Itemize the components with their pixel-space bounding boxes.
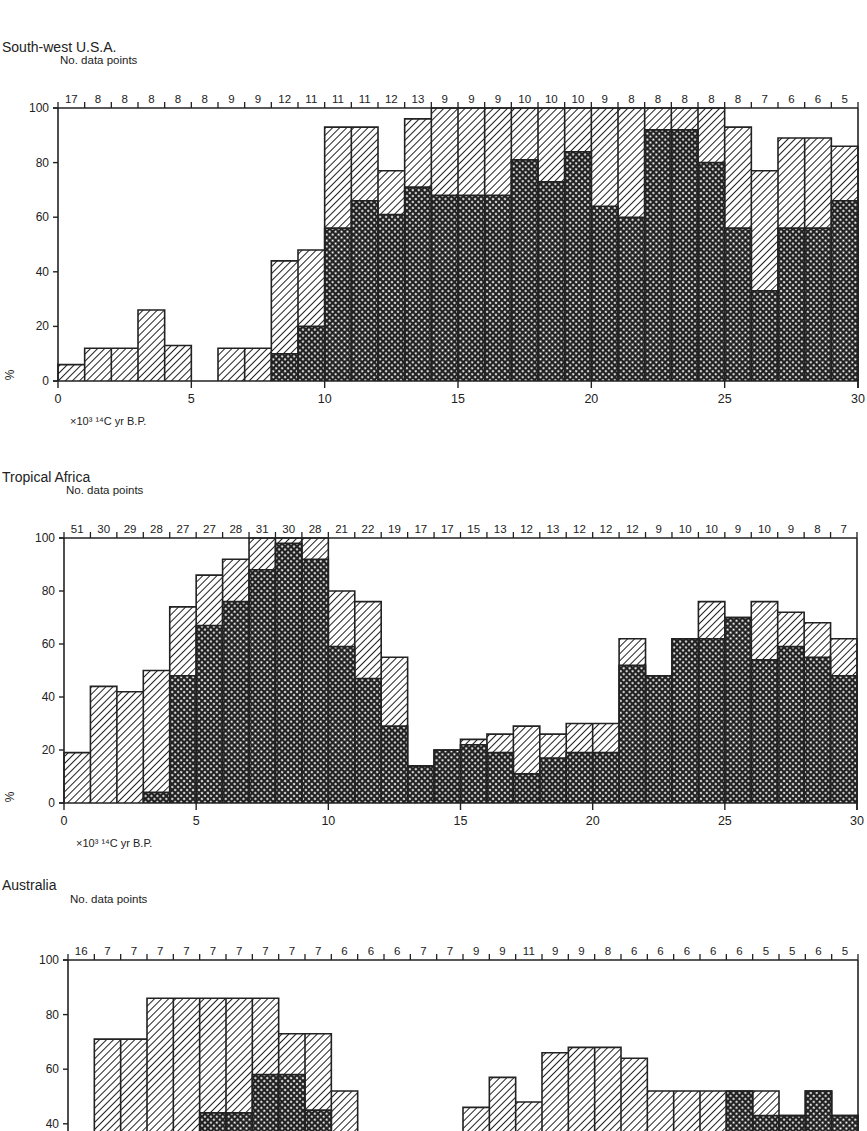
data-points-label: No. data points	[66, 484, 144, 496]
data-point-count: 9	[601, 93, 607, 105]
crosshatched-bar	[511, 160, 538, 381]
x-tick-label: 10	[321, 814, 335, 828]
y-tick-label: 20	[36, 319, 50, 333]
data-point-count: 9	[468, 93, 474, 105]
hatched-bar	[405, 119, 432, 381]
hatched-bar	[646, 676, 672, 803]
data-point-count: 10	[545, 93, 558, 105]
hatched-bar	[279, 1034, 305, 1131]
hatched-bar	[58, 365, 85, 381]
data-point-count: 7	[104, 945, 110, 957]
data-point-count: 6	[710, 945, 716, 957]
crosshatched-bar	[725, 228, 752, 381]
hatched-bar	[487, 734, 513, 803]
data-point-count: 8	[605, 945, 611, 957]
x-axis-label: ×10³ ¹⁴C yr B.P.	[70, 415, 146, 427]
hatched-bar	[593, 724, 619, 804]
data-point-count: 7	[236, 945, 242, 957]
hatched-bar	[408, 766, 434, 803]
hatched-bar	[351, 127, 378, 381]
data-point-count: 6	[788, 93, 794, 105]
hatched-bar	[245, 348, 272, 381]
data-point-count: 10	[572, 93, 585, 105]
crosshatched-bar	[355, 678, 381, 803]
data-point-count: 10	[758, 523, 771, 535]
hatched-bar	[645, 108, 672, 381]
crosshatched-bar	[302, 559, 328, 803]
data-point-count: 29	[124, 523, 137, 535]
hatched-bar	[200, 998, 226, 1131]
crosshatched-bar	[200, 1113, 226, 1131]
crosshatched-bar	[778, 228, 805, 381]
data-point-count: 5	[842, 945, 848, 957]
crosshatched-bar	[832, 1116, 858, 1131]
crosshatched-bar	[381, 726, 407, 803]
crosshatched-bar	[252, 1075, 278, 1131]
data-point-count: 17	[441, 523, 454, 535]
data-point-count: 9	[552, 945, 558, 957]
hatched-bar	[381, 657, 407, 803]
crosshatched-bar	[434, 750, 460, 803]
hatched-bar	[568, 1047, 594, 1131]
cross-outline	[143, 543, 857, 803]
hatched-bar	[325, 127, 352, 381]
data-point-count: 10	[679, 523, 692, 535]
crosshatched-bar	[461, 745, 487, 803]
crosshatched-bar	[565, 152, 592, 381]
data-point-count: 7	[183, 945, 189, 957]
hatched-bar	[516, 1102, 542, 1131]
hatched-bar	[805, 1091, 831, 1131]
data-point-count: 28	[150, 523, 163, 535]
hatched-bar	[298, 250, 325, 381]
crosshatched-bar	[378, 214, 405, 381]
hatched-bar	[513, 726, 539, 803]
y-tick-label: 100	[39, 953, 59, 967]
hatched-bar	[485, 108, 512, 381]
data-point-count: 9	[578, 945, 584, 957]
hatched-bar	[226, 998, 252, 1131]
hatched-bar	[378, 171, 405, 381]
data-point-count: 13	[547, 523, 560, 535]
crosshatched-bar	[226, 1113, 252, 1131]
data-point-count: 5	[789, 945, 795, 957]
hatched-bar	[751, 602, 777, 803]
hatched-bar	[672, 639, 698, 803]
crosshatched-bar	[271, 354, 298, 381]
crosshatched-bar	[831, 201, 858, 381]
bars	[58, 108, 858, 381]
data-point-count: 21	[335, 523, 348, 535]
hatched-bar	[831, 146, 858, 381]
data-point-count: 6	[736, 945, 742, 957]
y-tick-label: 60	[46, 1062, 60, 1076]
data-point-count: 27	[203, 523, 216, 535]
data-point-count: 8	[628, 93, 634, 105]
crosshatched-bar	[431, 195, 458, 381]
crosshatched-bar	[671, 130, 698, 381]
crosshatched-bar	[778, 647, 804, 803]
hatched-bar	[90, 686, 116, 803]
data-point-count: 6	[657, 945, 663, 957]
hatched-bar	[805, 138, 832, 381]
data-point-count: 12	[278, 93, 291, 105]
x-axis-label: ×10³ ¹⁴C yr B.P.	[76, 837, 152, 849]
total-outline	[94, 998, 858, 1131]
hatched-bar	[647, 1091, 673, 1131]
data-point-count: 15	[467, 523, 480, 535]
crosshatched-bar	[645, 130, 672, 381]
hatched-bar	[252, 998, 278, 1131]
hatched-bar	[726, 1091, 752, 1131]
data-point-count: 6	[815, 945, 821, 957]
data-points-label: No. data points	[60, 54, 138, 66]
hatched-bar	[275, 538, 301, 803]
crosshatched-bar	[298, 326, 325, 381]
data-point-count: 8	[95, 93, 101, 105]
x-tick-label: 20	[586, 814, 600, 828]
hatched-bar	[305, 1034, 331, 1131]
chart-0: South-west U.S.A.No. data points02040608…	[0, 0, 867, 1131]
data-point-count: 8	[201, 93, 207, 105]
crosshatched-bar	[725, 618, 751, 804]
crosshatched-bar	[751, 660, 777, 803]
crosshatched-bar	[328, 647, 354, 803]
hatched-bar	[595, 1047, 621, 1131]
bars	[94, 998, 858, 1131]
